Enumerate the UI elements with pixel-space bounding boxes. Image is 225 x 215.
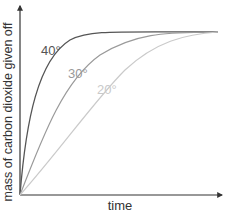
chart: 40° 30° 20° time mass of carbon dioxide … bbox=[0, 0, 225, 215]
x-axis-label: time bbox=[108, 198, 133, 213]
y-axis-label: mass of carbon dioxide given off bbox=[1, 22, 15, 202]
series-label-20: 20° bbox=[97, 82, 117, 97]
series-label-30: 30° bbox=[68, 66, 88, 81]
series-label-40: 40° bbox=[41, 43, 61, 58]
